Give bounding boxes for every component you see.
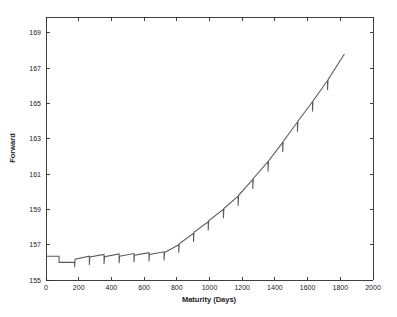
x-tick-label: 600 (138, 284, 150, 291)
x-tick-label: 400 (106, 284, 118, 291)
y-axis-label: Forward (8, 133, 17, 163)
y-tick-label: 165 (29, 100, 41, 107)
x-tick-label: 200 (73, 284, 85, 291)
x-tick-label: 1600 (300, 284, 316, 291)
y-tick-label: 169 (29, 29, 41, 36)
x-tick-label: 0 (44, 284, 48, 291)
x-tick-label: 1000 (202, 284, 218, 291)
y-tick-label: 163 (29, 135, 41, 142)
x-tick-label: 1400 (267, 284, 283, 291)
y-tick-label: 155 (29, 277, 41, 284)
y-tick-label: 157 (29, 241, 41, 248)
x-tick-label: 1200 (234, 284, 250, 291)
y-tick-label: 167 (29, 65, 41, 72)
y-tick-label: 161 (29, 171, 41, 178)
x-tick-label: 800 (171, 284, 183, 291)
x-tick-label: 2000 (365, 284, 381, 291)
x-axis-label: Maturity (Days) (182, 295, 237, 304)
forward-curve-chart: 0200400600800100012001400160018002000 15… (0, 0, 397, 317)
y-tick-label: 159 (29, 206, 41, 213)
chart-figure: 0200400600800100012001400160018002000 15… (0, 0, 397, 317)
x-tick-label: 1800 (333, 284, 349, 291)
chart-background (0, 0, 397, 317)
